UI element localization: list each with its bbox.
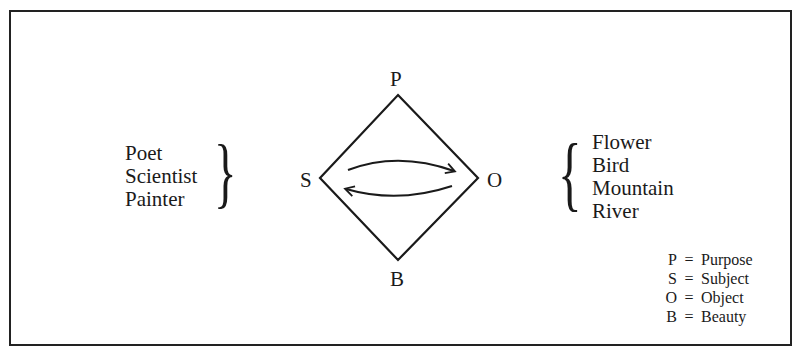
legend-key: B <box>655 307 677 326</box>
right-group-list: Flower Bird Mountain River <box>592 131 674 223</box>
diamond-shape <box>320 95 478 260</box>
legend-value: Object <box>701 288 744 307</box>
legend-value: Purpose <box>701 250 753 269</box>
legend-equals: = <box>677 250 701 269</box>
legend-row: B = Beauty <box>655 307 753 326</box>
arrow-o-to-s <box>346 186 452 196</box>
left-group-item: Poet <box>125 142 197 165</box>
legend-row: P = Purpose <box>655 250 753 269</box>
legend-value: Beauty <box>701 307 746 326</box>
node-label-purpose: P <box>390 67 402 91</box>
legend-key: P <box>655 250 677 269</box>
legend-value: Subject <box>701 269 749 288</box>
right-group-item: Flower <box>592 131 674 154</box>
right-curly-brace: } <box>214 128 236 218</box>
legend-equals: = <box>677 288 701 307</box>
legend-equals: = <box>677 269 701 288</box>
node-label-object: O <box>487 168 502 192</box>
node-label-subject: S <box>300 168 312 192</box>
right-group-item: Bird <box>592 154 674 177</box>
arrow-s-to-o <box>348 161 454 171</box>
left-group-item: Scientist <box>125 165 197 188</box>
right-group-item: Mountain <box>592 177 674 200</box>
legend-key: O <box>655 288 677 307</box>
legend: P = Purpose S = Subject O = Object B = B… <box>655 250 753 326</box>
left-curly-brace: { <box>558 127 582 221</box>
node-label-beauty: B <box>390 267 404 291</box>
legend-key: S <box>655 269 677 288</box>
legend-equals: = <box>677 307 701 326</box>
legend-row: O = Object <box>655 288 753 307</box>
left-group-list: Poet Scientist Painter <box>125 142 197 211</box>
legend-row: S = Subject <box>655 269 753 288</box>
right-group-item: River <box>592 200 674 223</box>
left-group-item: Painter <box>125 188 197 211</box>
